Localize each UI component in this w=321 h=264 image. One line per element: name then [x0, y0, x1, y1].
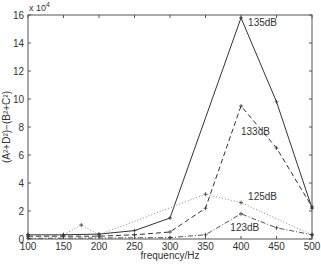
series-label: 133dB: [241, 126, 270, 137]
plot-series: [26, 16, 314, 241]
y-tick-label: 8: [18, 122, 24, 133]
x-tick-label: 400: [233, 241, 250, 252]
series-label: 123dB: [230, 222, 259, 233]
y-tick-label: 10: [13, 94, 25, 105]
y-tick-label: 4: [18, 178, 24, 189]
x-tick-label: 150: [55, 241, 72, 252]
y-tick-label: 12: [13, 66, 25, 77]
y-axis-label: (A²+D²)−(B²+C²): [1, 91, 12, 163]
y-tick-label: 14: [13, 38, 25, 49]
y-multiplier: x 104: [29, 1, 50, 13]
y-tick-label: 2: [18, 206, 24, 217]
x-tick-label: 350: [197, 241, 214, 252]
series-label: 135dB: [248, 17, 277, 28]
y-tick-label: 16: [13, 10, 25, 21]
y-tick-label: 6: [18, 150, 24, 161]
line-chart: 1001502002503003504004505000246810121416…: [0, 0, 321, 264]
x-axis-label: frequency/Hz: [141, 250, 200, 261]
series-labels: 135dB133dB125dB123dB: [230, 17, 277, 232]
x-tick-label: 450: [268, 241, 285, 252]
y-tick-label: 0: [18, 234, 24, 245]
x-tick-label: 200: [91, 241, 108, 252]
x-tick-label: 500: [304, 241, 321, 252]
series-label: 125dB: [248, 191, 277, 202]
plot-axes: 1001502002503003504004505000246810121416: [13, 10, 321, 253]
